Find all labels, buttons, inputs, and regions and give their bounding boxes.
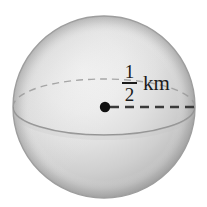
sphere-center-dot [100,102,110,112]
sphere-diagram: 1 2 km [0,0,207,207]
sphere-graphic [0,0,207,207]
